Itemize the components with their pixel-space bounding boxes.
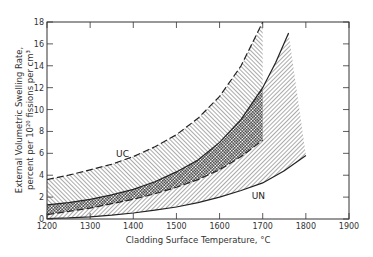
x-tick-label: 1300 [80,222,100,231]
y-tick-label: 2 [39,193,44,202]
y-axis-title-line2: percent per 10²⁰ fissions per cm³ [25,50,35,190]
x-axis-title: Cladding Surface Temperature, °C [126,235,271,245]
y-tick-label: 12 [34,84,44,93]
y-tick-label: 0 [39,215,44,224]
y-tick-label: 4 [39,171,44,180]
x-tick-label: 1900 [339,222,359,231]
y-tick-label: 8 [39,127,44,136]
x-tick-label: 1700 [253,222,273,231]
y-tick-label: 16 [34,40,44,49]
x-tick-label: 1400 [123,222,143,231]
x-tick-label: 1500 [166,222,186,231]
curve-label-uc: UC [116,149,129,159]
bands-layer [47,22,306,219]
y-axis-title-line1: External Volumetric Swelling Rate, [14,47,24,193]
y-tick-label: 14 [34,62,44,71]
x-tick-label: 1800 [296,222,316,231]
y-tick-label: 6 [39,149,44,158]
swelling-rate-chart: 1200130014001500160017001800190002468101… [0,0,373,257]
y-tick-label: 18 [34,18,44,27]
y-tick-label: 10 [34,106,44,115]
x-tick-label: 1600 [209,222,229,231]
curve-label-un: UN [252,191,265,201]
